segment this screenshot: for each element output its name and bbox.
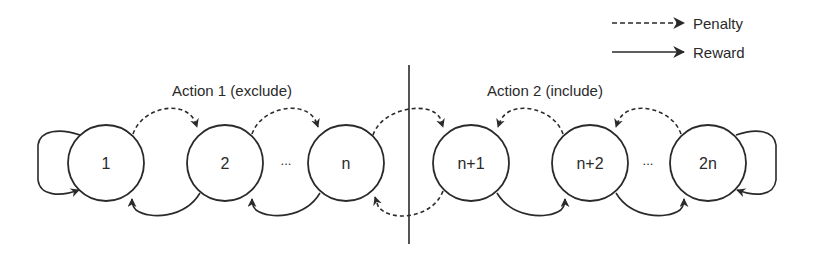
- arrow-n2-to-n1: [498, 108, 563, 134]
- state-label-2: 2: [221, 155, 230, 172]
- arrow-2n-to-n2: [616, 108, 681, 134]
- reward-transitions: [38, 131, 776, 215]
- arrow-2-to-n: [252, 108, 318, 134]
- legend: [612, 23, 684, 52]
- ellipsis-right: ...: [643, 153, 654, 168]
- arrow-2-to-1: [132, 193, 200, 216]
- arrow-1-to-2: [133, 108, 197, 134]
- arrow-n1-to-n2: [497, 193, 565, 216]
- markov-chain-diagram: 1 2 n n+1 n+2 2n ... ... Action 1 (exclu…: [0, 0, 814, 261]
- state-label-1: 1: [102, 155, 111, 172]
- state-label-n-plus-1: n+1: [457, 155, 484, 172]
- arrow-n2-to-2n: [616, 193, 684, 216]
- section-title-action-2: Action 2 (include): [487, 82, 603, 99]
- legend-reward-label: Reward: [693, 44, 745, 61]
- legend-penalty-label: Penalty: [693, 15, 743, 32]
- arrow-2n-to-2n: [736, 131, 776, 194]
- arrow-n-to-2: [252, 193, 320, 216]
- state-label-n-plus-2: n+2: [576, 155, 603, 172]
- state-label-2n: 2n: [699, 155, 717, 172]
- arrow-1-to-1: [38, 131, 80, 194]
- section-title-action-1: Action 1 (exclude): [172, 82, 292, 99]
- state-label-n: n: [342, 155, 351, 172]
- arrow-n-to-n1: [373, 108, 443, 135]
- ellipsis-left: ...: [281, 153, 292, 168]
